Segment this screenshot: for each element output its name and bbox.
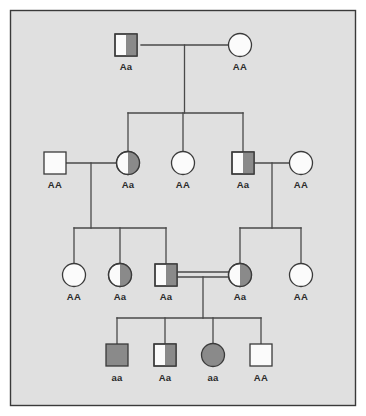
- symbol-half-fill-IV-2: [165, 344, 176, 366]
- symbol-circle-open-I-2: [229, 34, 252, 57]
- genotype-label-III-2: Aa: [114, 291, 127, 302]
- pedigree-figure: Aa AA AA Aa AA: [0, 0, 366, 416]
- genotype-label-II-3: AA: [176, 179, 190, 190]
- symbol-half-fill-I-1: [126, 34, 137, 56]
- genotype-label-IV-4: AA: [254, 372, 268, 383]
- genotype-label-II-5: AA: [294, 179, 308, 190]
- genotype-label-III-5: AA: [294, 291, 308, 302]
- genotype-label-IV-2: Aa: [159, 372, 172, 383]
- symbol-circle-open-II-3: [172, 152, 195, 175]
- genotype-label-IV-1: aa: [111, 372, 123, 383]
- genotype-label-III-1: AA: [67, 291, 81, 302]
- genotype-label-IV-3: aa: [207, 372, 219, 383]
- symbol-square-open-IV-4: [250, 344, 272, 366]
- pedigree-chart-svg: Aa AA AA Aa AA: [0, 0, 366, 416]
- symbol-square-open-II-1: [44, 152, 66, 174]
- symbol-circle-open-III-1: [63, 264, 86, 287]
- genotype-label-I-2: AA: [233, 61, 247, 72]
- genotype-label-II-1: AA: [48, 179, 62, 190]
- chart-frame: [11, 11, 356, 406]
- genotype-label-III-4: Aa: [234, 291, 247, 302]
- genotype-label-II-4: Aa: [237, 179, 250, 190]
- genotype-label-II-2: Aa: [122, 179, 135, 190]
- symbol-circle-filled-IV-3: [202, 344, 225, 367]
- symbol-square-filled-IV-1: [106, 344, 128, 366]
- genotype-label-I-1: Aa: [120, 61, 133, 72]
- symbol-circle-open-III-5: [290, 264, 313, 287]
- symbol-half-fill-II-4: [243, 152, 254, 174]
- symbol-circle-open-II-5: [290, 152, 313, 175]
- symbol-half-fill-III-3: [166, 264, 177, 286]
- genotype-label-III-3: Aa: [160, 291, 173, 302]
